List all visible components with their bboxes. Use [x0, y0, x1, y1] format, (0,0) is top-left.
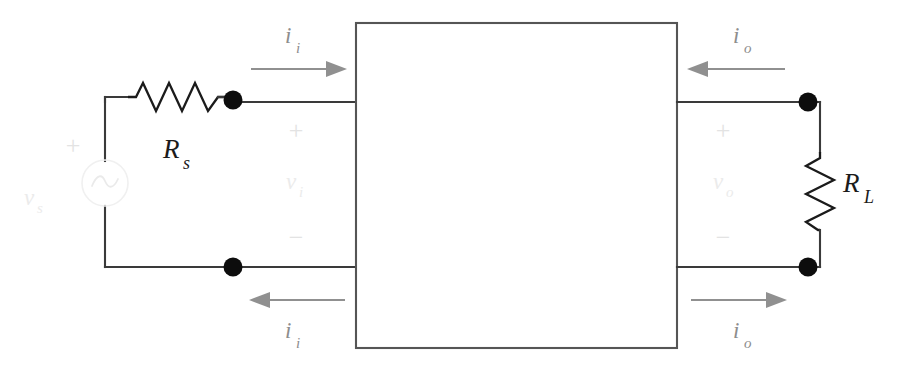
output-voltage-plus-sign: +: [716, 116, 731, 145]
input-voltage-minus-sign: −: [289, 223, 304, 252]
input-current-top-subscript: i: [296, 40, 300, 56]
source-plus-sign: +: [66, 131, 81, 160]
source-voltage-subscript: s: [37, 200, 43, 216]
input-voltage-subscript: i: [299, 184, 303, 200]
input-current-top-arrow-head: [326, 61, 347, 77]
input-voltage-plus-sign: +: [289, 116, 304, 145]
output-current-bottom-subscript: o: [744, 335, 752, 351]
circuit-schematic: + v s R s i i i i + v i − i o: [0, 0, 898, 376]
output-voltage-label: v: [713, 169, 724, 194]
node-dot-output-bottom: [799, 258, 818, 277]
source-resistor-label: R: [162, 134, 180, 164]
output-current-bottom-arrow-head: [766, 292, 787, 308]
output-current-bottom-label: i: [733, 318, 739, 343]
two-port-network-box: [356, 23, 677, 348]
input-voltage-label: v: [286, 169, 297, 194]
node-dot-input-top: [224, 91, 243, 110]
node-dot-input-bottom: [224, 258, 243, 277]
input-current-bottom-subscript: i: [296, 335, 300, 351]
load-resistor-label: R: [842, 168, 860, 198]
load-resistor-subscript: L: [863, 187, 874, 207]
wire-source-to-resistor-top: [105, 97, 128, 102]
load-resistor-symbol: [806, 152, 834, 230]
ac-source-sine-icon: [92, 176, 118, 186]
output-current-top-label: i: [733, 23, 739, 48]
output-voltage-minus-sign: −: [716, 223, 731, 252]
output-voltage-subscript: o: [726, 184, 734, 200]
input-current-bottom-label: i: [285, 318, 291, 343]
input-current-top-label: i: [285, 23, 291, 48]
output-current-top-arrow-head: [687, 61, 708, 77]
node-dot-output-top: [799, 93, 818, 112]
input-current-bottom-arrow-head: [249, 292, 270, 308]
output-current-top-subscript: o: [744, 40, 752, 56]
circuit-diagram-canvas: + v s R s i i i i + v i − i o: [0, 0, 898, 376]
source-voltage-label: v: [24, 185, 35, 210]
source-resistor-subscript: s: [183, 153, 190, 173]
